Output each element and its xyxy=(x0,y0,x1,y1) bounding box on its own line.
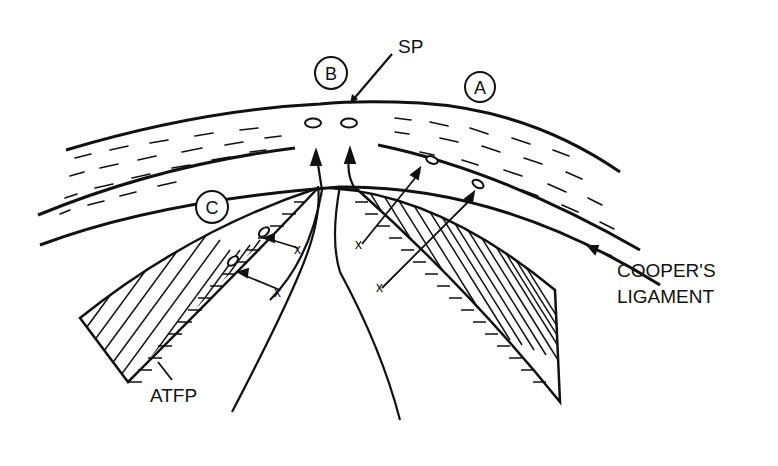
atfp-pointer xyxy=(158,362,172,380)
label-coopers-ligament-line2: LIGAMENT xyxy=(617,286,715,307)
left-muscle xyxy=(60,188,320,400)
x-marker: x xyxy=(355,236,362,252)
label-a-text: A xyxy=(474,78,486,98)
label-coopers-ligament-line1: COOPER'S xyxy=(617,260,716,281)
label-b: B xyxy=(315,57,347,89)
label-c-text: C xyxy=(206,198,219,218)
label-atfp: ATFP xyxy=(150,385,197,406)
label-a: A xyxy=(465,72,495,102)
x-marker: x xyxy=(294,241,301,257)
label-c: C xyxy=(196,191,228,223)
sp-pointer xyxy=(352,54,392,101)
label-b-text: B xyxy=(325,64,337,84)
right-muscle xyxy=(330,180,606,402)
label-sp: SP xyxy=(398,36,423,57)
x-marker: x xyxy=(274,284,281,300)
x-marker: x xyxy=(376,279,383,295)
anatomy-diagram: x x x x B A C SP COOPER'S LIGAMENT ATFP xyxy=(0,0,778,466)
